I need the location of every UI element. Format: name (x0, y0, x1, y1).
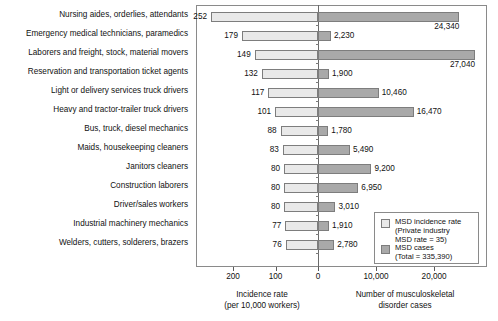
bar-incidence-rate (283, 145, 318, 155)
zero-line-tick (316, 82, 319, 83)
zero-line-tick (316, 215, 319, 216)
bar-incidence-rate (242, 31, 318, 41)
bar-value-msd-cases: 1,910 (332, 220, 353, 231)
bar-incidence-rate (285, 221, 318, 231)
zero-line-tick (316, 158, 319, 159)
bar-incidence-rate (281, 126, 318, 136)
bar-value-incidence-rate: 88 (249, 125, 277, 136)
bar-value-msd-cases: 16,470 (417, 106, 442, 117)
bar-incidence-rate (255, 50, 318, 60)
bar-msd-cases (318, 88, 379, 98)
bar-value-incidence-rate: 149 (223, 49, 251, 60)
bar-incidence-rate (211, 12, 318, 22)
chart-legend: MSD incidence rate (Private industry MSD… (374, 212, 479, 264)
bar-value-incidence-rate: 77 (253, 220, 281, 231)
right-axis-20000-tick-label: 20,000 (409, 272, 459, 282)
right-axis-title-line1: Number of musculoskeletal (330, 290, 480, 301)
bar-incidence-rate (284, 164, 318, 174)
bar-value-incidence-rate: 101 (243, 106, 271, 117)
right-axis-10000-tick-label: 10,000 (351, 272, 401, 282)
zero-line-tick (316, 234, 319, 235)
bar-value-msd-cases: 2,780 (337, 239, 358, 250)
bar-msd-cases (318, 126, 328, 136)
zero-line-tick (316, 253, 319, 254)
bar-value-msd-cases: 1,900 (332, 68, 353, 79)
bar-msd-cases (318, 164, 371, 174)
bar-incidence-rate (286, 240, 318, 250)
bar-row: 806,950 (0, 180, 498, 199)
bar-value-incidence-rate: 132 (230, 68, 258, 79)
bar-incidence-rate (268, 88, 318, 98)
bar-value-msd-cases: 10,460 (382, 87, 407, 98)
bar-row: 10116,470 (0, 104, 498, 123)
bar-row: 14927,040 (0, 47, 498, 66)
bar-msd-cases (318, 221, 329, 231)
right-axis-10000-tick (376, 267, 377, 271)
bar-msd-cases (318, 31, 331, 41)
zero-line-tick (316, 63, 319, 64)
bar-value-incidence-rate: 83 (251, 144, 279, 155)
bar-row: 809,200 (0, 161, 498, 180)
zero-line-tick (316, 177, 319, 178)
axis-zero-tick-label: 0 (293, 272, 343, 282)
msd-chart: Nursing aides, orderlies, attendantsEmer… (0, 0, 498, 321)
bar-msd-cases (318, 145, 350, 155)
right-axis-title-line2: disorder cases (330, 301, 480, 312)
bar-row: 1321,900 (0, 66, 498, 85)
bar-value-msd-cases: 3,010 (338, 201, 359, 212)
bar-value-incidence-rate: 179 (210, 30, 238, 41)
bar-value-incidence-rate: 80 (252, 201, 280, 212)
legend-swatch-light-icon (381, 219, 390, 228)
left-axis-200-tick (233, 267, 234, 271)
zero-line-tick (316, 44, 319, 45)
legend-cases-line2: (Total = 335,390) (395, 253, 452, 262)
left-axis-title-line1: Incidence rate (203, 290, 321, 301)
bar-incidence-rate (262, 69, 318, 79)
legend-swatch-dark-icon (381, 245, 390, 254)
right-axis-20000-tick (434, 267, 435, 271)
bar-value-incidence-rate: 252 (179, 11, 207, 22)
bar-msd-cases (318, 240, 334, 250)
bar-value-msd-cases: 6,950 (361, 182, 382, 193)
zero-line-tick (316, 25, 319, 26)
bar-row: 835,490 (0, 142, 498, 161)
bar-incidence-rate (284, 183, 318, 193)
bar-msd-cases (318, 107, 414, 117)
bar-value-incidence-rate: 76 (254, 239, 282, 250)
bar-incidence-rate (284, 202, 318, 212)
zero-line-tick (316, 139, 319, 140)
bar-incidence-rate (275, 107, 318, 117)
bar-value-incidence-rate: 80 (252, 163, 280, 174)
bar-msd-cases (318, 183, 358, 193)
bar-value-msd-cases: 9,200 (374, 163, 395, 174)
bar-value-msd-cases: 1,780 (331, 125, 352, 136)
bar-row: 25224,340 (0, 9, 498, 28)
zero-line-tick (316, 120, 319, 121)
bar-msd-cases (318, 202, 335, 212)
bar-value-msd-cases: 5,490 (353, 144, 374, 155)
bar-row: 881,780 (0, 123, 498, 142)
left-axis-100-tick (276, 267, 277, 271)
zero-line-tick (316, 196, 319, 197)
bar-value-msd-cases: 2,230 (334, 30, 355, 41)
bar-value-incidence-rate: 117 (236, 87, 264, 98)
axis-zero-tick (318, 267, 319, 271)
bar-row: 1792,230 (0, 28, 498, 47)
zero-line-tick (316, 101, 319, 102)
bar-value-incidence-rate: 80 (252, 182, 280, 193)
bar-row: 11710,460 (0, 85, 498, 104)
left-axis-title-line2: (per 10,000 workers) (203, 301, 321, 312)
bar-msd-cases (318, 69, 329, 79)
